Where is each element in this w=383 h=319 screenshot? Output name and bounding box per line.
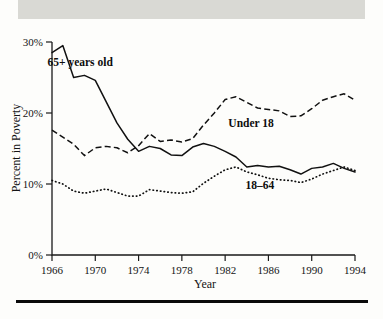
y-tick-label: 10%	[23, 178, 43, 190]
y-tick-label: 0%	[28, 249, 43, 261]
y-tick-label: 20%	[23, 107, 43, 119]
x-axis-tick-labels: 19661970197419781982198619901994	[41, 264, 367, 276]
y-axis-ticks	[46, 42, 52, 255]
series-label-65-years-old: 65+ years old	[47, 56, 113, 69]
y-tick-label: 30%	[23, 36, 43, 48]
chart-plot-area: 0%10%20%30% 1966197019741978198219861990…	[0, 20, 383, 295]
series-label-under-18: Under 18	[228, 117, 274, 129]
x-tick-label: 1978	[171, 264, 194, 276]
x-tick-label: 1982	[214, 264, 236, 276]
series-line-under-18	[52, 94, 355, 156]
x-axis-ticks	[52, 255, 355, 261]
chart-axes	[52, 42, 355, 255]
series-line-18-64	[52, 167, 355, 196]
x-tick-label: 1990	[301, 264, 324, 276]
y-axis-tick-labels: 0%10%20%30%	[23, 36, 43, 261]
x-tick-label: 1966	[41, 264, 64, 276]
x-tick-label: 1974	[128, 264, 151, 276]
figure-caption-band	[18, 0, 365, 19]
poverty-rate-figure: 0%10%20%30% 1966197019741978198219861990…	[0, 0, 383, 319]
x-axis-title: Year	[194, 277, 216, 291]
x-tick-label: 1970	[84, 264, 107, 276]
y-axis-title: Percent in Poverty	[9, 104, 23, 193]
footer-rule	[16, 300, 368, 303]
x-tick-label: 1994	[344, 264, 367, 276]
line-chart-svg: 0%10%20%30% 1966197019741978198219861990…	[0, 20, 383, 295]
series-label-18-64: 18–64	[245, 179, 274, 191]
x-tick-label: 1986	[257, 264, 280, 276]
figure-caption-text	[26, 0, 356, 3]
